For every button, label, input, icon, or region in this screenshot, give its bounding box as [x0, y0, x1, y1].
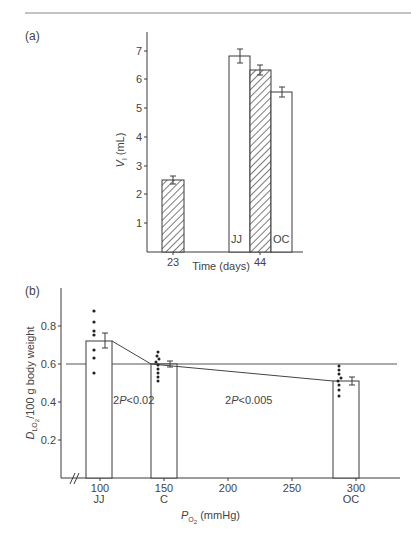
panel-b-y-label: DLO2/100 g body weight: [24, 327, 40, 440]
bar-jj: [86, 341, 112, 478]
panel-b: (b) 0.8 0.6 0.4 0.2 DLO2/100 g body weig…: [24, 284, 400, 525]
bar-label-jj: JJ: [231, 233, 242, 245]
svg-text:0.4: 0.4: [41, 396, 56, 408]
bar-day23-hatched: [162, 180, 184, 252]
panel-b-label: (b): [25, 284, 40, 298]
svg-text:250: 250: [283, 482, 301, 494]
bar-label-oc: OC: [273, 233, 290, 245]
svg-text:4: 4: [136, 131, 142, 143]
svg-text:6: 6: [136, 73, 142, 85]
panel-a: (a) 7 6 5 4 3 2 1 Vl (mL): [25, 29, 303, 272]
category-label-jj: JJ: [94, 493, 105, 505]
panel-a-xtick-44: 44: [254, 256, 266, 268]
trend-line: [112, 341, 333, 381]
bar-oc-open: [271, 92, 292, 252]
panel-a-x-label: Time (days): [192, 260, 250, 272]
annotation-p-002: 2P<0.02: [113, 394, 154, 406]
category-label-c: C: [160, 493, 168, 505]
bar-day44-hatched: [250, 70, 271, 252]
svg-text:7: 7: [136, 45, 142, 57]
bar-jj-open: [229, 56, 250, 252]
panel-a-label: (a): [25, 29, 40, 43]
svg-text:0.2: 0.2: [41, 434, 56, 446]
svg-text:3: 3: [136, 160, 142, 172]
svg-text:0.6: 0.6: [41, 358, 56, 370]
svg-text:2: 2: [136, 188, 142, 200]
panel-b-y-ticks: 0.8 0.6 0.4 0.2: [41, 320, 61, 446]
panel-a-y-ticks: 7 6 5 4 3 2 1: [136, 45, 147, 229]
svg-text:5: 5: [136, 102, 142, 114]
svg-text:0.8: 0.8: [41, 320, 56, 332]
figure: (a) 7 6 5 4 3 2 1 Vl (mL): [0, 0, 411, 546]
annotation-p-0005: 2P<0.005: [225, 394, 272, 406]
panel-a-xtick-23: 23: [167, 256, 179, 268]
panel-a-y-label: Vl (mL): [114, 133, 129, 168]
category-label-oc: OC: [343, 493, 360, 505]
svg-text:1: 1: [136, 217, 142, 229]
svg-text:200: 200: [219, 482, 237, 494]
bar-c: [151, 364, 177, 478]
bar-oc: [333, 381, 359, 478]
panel-b-x-ticks: 100 150 200 250 300: [91, 478, 365, 494]
panel-b-x-label: PO2 (mmHg): [181, 509, 240, 525]
